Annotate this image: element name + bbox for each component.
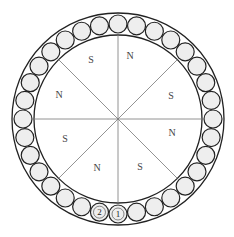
ball-circle [188, 57, 206, 75]
ball-circle [90, 17, 108, 35]
ball-circle [202, 91, 220, 109]
ball-circle [21, 74, 39, 92]
ball-circle [128, 17, 146, 35]
ball [16, 91, 34, 109]
ball [128, 17, 146, 35]
ball [30, 57, 48, 75]
pole-labels: SNSNSNSN [55, 50, 175, 173]
ball [42, 43, 60, 61]
ball [21, 146, 39, 164]
ball-circle [145, 22, 163, 40]
north-pole-label: N [126, 50, 133, 61]
ball [128, 203, 146, 221]
ball-circle [128, 203, 146, 221]
ball [176, 177, 194, 195]
ball [145, 198, 163, 216]
ball [197, 74, 215, 92]
ball-circle [56, 189, 74, 207]
south-pole-label: S [168, 90, 174, 101]
ball [73, 22, 91, 40]
ball [56, 31, 74, 49]
ball-circle [14, 110, 32, 128]
south-pole-label: S [62, 133, 68, 144]
ball-circle [197, 74, 215, 92]
ball-circle [188, 163, 206, 181]
ball [188, 163, 206, 181]
ball [145, 22, 163, 40]
ball-circle [30, 57, 48, 75]
ball-circle [56, 31, 74, 49]
ball [109, 15, 127, 33]
ball [42, 177, 60, 195]
ball: 2 [90, 203, 108, 221]
south-pole-label: S [88, 54, 94, 65]
ball [204, 110, 222, 128]
ball [162, 189, 180, 207]
ball-circle [73, 198, 91, 216]
ball [202, 129, 220, 147]
ball [202, 91, 220, 109]
ball-number-label: 2 [97, 207, 102, 217]
ball [188, 57, 206, 75]
north-pole-label: N [168, 127, 175, 138]
ball-circle [162, 31, 180, 49]
north-pole-label: N [93, 162, 100, 173]
ball-circle [176, 43, 194, 61]
ball [73, 198, 91, 216]
rotor-sector-lines [34, 35, 202, 203]
ball-circle [162, 189, 180, 207]
ball-circle [145, 198, 163, 216]
north-pole-label: N [55, 89, 62, 100]
ball-circle [204, 110, 222, 128]
ball [90, 17, 108, 35]
ball [197, 146, 215, 164]
ball-circle [176, 177, 194, 195]
ball-circle [202, 129, 220, 147]
ball: 1 [109, 205, 127, 223]
ball-circle [73, 22, 91, 40]
south-pole-label: S [137, 161, 143, 172]
ball [16, 129, 34, 147]
ball-circle [30, 163, 48, 181]
ball-circle [42, 43, 60, 61]
ball-circle [109, 15, 127, 33]
ball-circle [42, 177, 60, 195]
sector-line [59, 119, 118, 178]
ball-circle [21, 146, 39, 164]
ball-circle [16, 129, 34, 147]
ball [21, 74, 39, 92]
ball [14, 110, 32, 128]
ball [162, 31, 180, 49]
ball [56, 189, 74, 207]
ball-number-label: 1 [116, 209, 121, 219]
sector-line [59, 60, 118, 119]
ball-circle [197, 146, 215, 164]
ball [176, 43, 194, 61]
ball-circle [16, 91, 34, 109]
magnet-bearing-diagram: 12 SNSNSNSN [0, 0, 234, 237]
ball [30, 163, 48, 181]
